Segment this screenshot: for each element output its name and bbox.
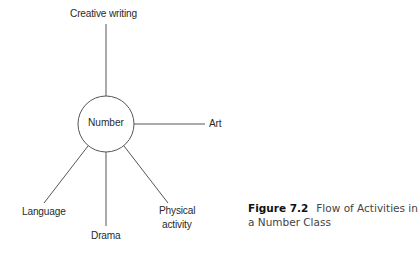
caption-text-line1: Flow of Activities in [316, 202, 418, 214]
node-creative-writing: Creative writing [70, 7, 137, 19]
node-art: Art [209, 117, 221, 129]
figure-number: Figure 7.2 [248, 202, 308, 214]
caption-text-line2: a Number Class [248, 215, 418, 229]
center-node-label: Number [80, 116, 133, 128]
node-drama: Drama [91, 229, 120, 241]
edge-language [44, 146, 88, 203]
node-physical-activity-line1: Physical [159, 204, 195, 216]
edge-physical-activity [124, 146, 168, 203]
node-language: Language [22, 205, 66, 217]
node-physical-activity-line2: activity [162, 218, 192, 230]
figure-caption: Figure 7.2Flow of Activities in a Number… [248, 201, 418, 229]
